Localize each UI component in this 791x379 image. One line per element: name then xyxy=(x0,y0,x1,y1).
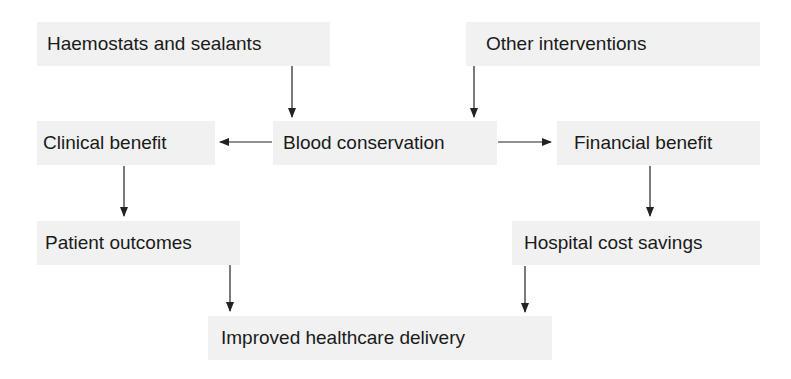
node-label: Haemostats and sealants xyxy=(47,33,261,54)
node-blood-conservation: Blood conservation xyxy=(273,121,497,165)
node-label: Hospital cost savings xyxy=(524,232,702,253)
node-label: Financial benefit xyxy=(574,132,712,153)
node-financial-benefit: Financial benefit xyxy=(557,121,760,165)
node-hospital-cost-savings: Hospital cost savings xyxy=(512,221,760,265)
node-label: Patient outcomes xyxy=(45,232,192,253)
node-clinical-benefit: Clinical benefit xyxy=(37,121,215,165)
node-patient-outcomes: Patient outcomes xyxy=(37,221,240,265)
node-haemostats-and-sealants: Haemostats and sealants xyxy=(37,22,330,66)
node-improved-healthcare-delivery: Improved healthcare delivery xyxy=(208,316,552,360)
node-label: Blood conservation xyxy=(283,132,445,153)
node-label: Other interventions xyxy=(486,33,647,54)
node-other-interventions: Other interventions xyxy=(466,22,760,66)
node-label: Improved healthcare delivery xyxy=(221,327,465,348)
node-label: Clinical benefit xyxy=(43,132,167,153)
